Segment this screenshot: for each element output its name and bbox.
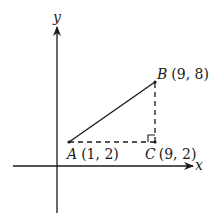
point-b-label: B(9, 8) [156, 66, 209, 82]
point-c-label: C(9, 2) [145, 146, 196, 162]
point-c [153, 140, 156, 143]
point-a [67, 140, 70, 143]
segment-ab [69, 82, 155, 142]
coordinate-diagram: x y A(1, 2) B(9, 8) C(9, 2) [0, 0, 213, 224]
point-a-label: A(1, 2) [65, 146, 119, 162]
y-axis-label: y [52, 9, 62, 25]
